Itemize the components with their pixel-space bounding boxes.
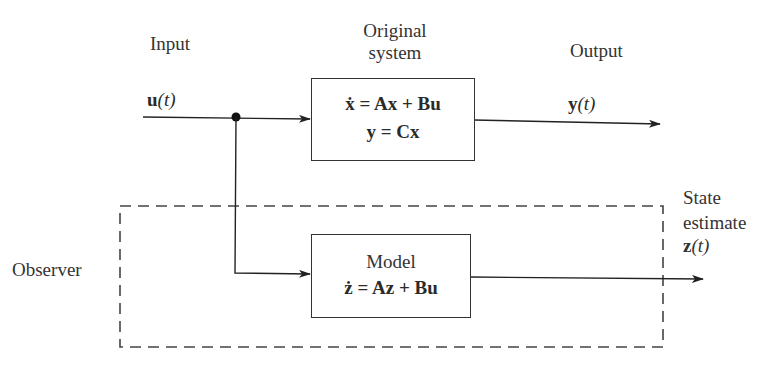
model-block: Model ż = Az + Bu (311, 234, 471, 318)
model-equation: ż = Az + Bu (312, 277, 470, 299)
original-system-title-line2: system (350, 42, 440, 64)
state-estimate-line1: State (683, 185, 746, 210)
original-system-title-line1: Original (350, 20, 440, 42)
model-title: Model (312, 251, 470, 273)
state-estimate-signal: z(t) (683, 235, 746, 257)
observer-label: Observer (12, 259, 82, 281)
input-signal-time: (t) (158, 89, 176, 110)
branch-line (235, 117, 310, 274)
output-line (474, 120, 660, 124)
output-signal: y(t) (568, 93, 595, 115)
original-system-title: Original system (350, 20, 440, 64)
output-signal-vector: y (568, 93, 578, 114)
state-eq-rhs: = Ax + Bu (355, 93, 441, 114)
state-estimate-line (470, 277, 703, 279)
output-label: Output (570, 40, 623, 62)
input-label: Input (150, 33, 190, 55)
model-eq-lhs: ż (344, 277, 352, 298)
original-system-output-eq: y = Cx (312, 121, 474, 143)
state-eq-lhs: ẋ (345, 93, 355, 114)
estimate-signal-time: (t) (691, 235, 709, 256)
input-signal-vector: u (147, 89, 158, 110)
state-estimate-label: State estimate z(t) (683, 185, 746, 257)
model-eq-rhs: = Az + Bu (353, 277, 438, 298)
output-signal-time: (t) (578, 93, 596, 114)
input-signal: u(t) (147, 89, 176, 111)
original-system-block: ẋ = Ax + Bu y = Cx (311, 78, 475, 161)
original-system-state-eq: ẋ = Ax + Bu (312, 93, 474, 115)
state-estimate-line2: estimate (683, 210, 746, 235)
input-line (143, 117, 310, 119)
